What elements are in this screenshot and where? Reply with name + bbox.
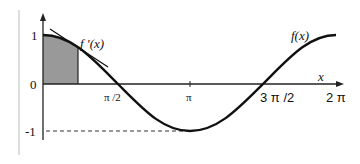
tick-label-pi-half: π /2 xyxy=(104,91,121,103)
fx-label: f(x) xyxy=(291,28,309,43)
y-axis-arrow-icon xyxy=(40,13,46,21)
y-tick-label-0: 0 xyxy=(30,77,37,92)
fprime-label: f '(x) xyxy=(80,36,104,51)
x-axis-label: x xyxy=(317,69,324,84)
tick-label-pi: π xyxy=(186,91,192,103)
cosine-chart: f '(x) f(x) x π /2 π 3 π /2 2 π 1 0 -1 xyxy=(0,0,360,164)
x-axis-arrow-icon xyxy=(336,81,344,87)
shaded-area xyxy=(43,35,78,84)
tick-label-3pi-half: 3 π /2 xyxy=(260,90,294,105)
y-tick-label-1: 1 xyxy=(31,28,38,43)
tick-label-2pi: 2 π xyxy=(326,90,346,105)
y-tick-label-neg1: -1 xyxy=(25,124,36,139)
